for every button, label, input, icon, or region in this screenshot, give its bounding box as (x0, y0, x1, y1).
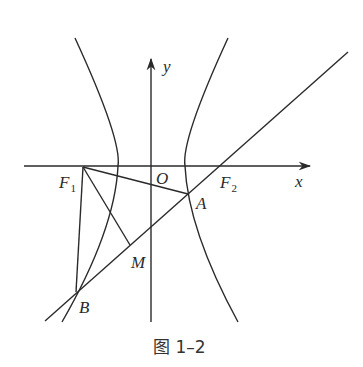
x-axis-label: x (294, 172, 303, 191)
y-axis-label: y (161, 57, 171, 76)
origin-label: O (156, 169, 168, 188)
hyperbola-diagram: y x O F1 F2 A B M 图 1–2 (0, 0, 363, 367)
line-BA-F2 (45, 52, 348, 321)
point-M-label: M (130, 253, 146, 272)
figure-caption: 图 1–2 (153, 337, 206, 357)
segment-F1B (76, 167, 83, 292)
point-F2-label: F2 (219, 173, 237, 194)
segment-F1M (83, 167, 130, 245)
point-F1-label: F1 (58, 173, 76, 194)
point-A-label: A (195, 194, 207, 213)
point-B-label: B (79, 298, 90, 317)
segment-F1A (83, 167, 188, 194)
